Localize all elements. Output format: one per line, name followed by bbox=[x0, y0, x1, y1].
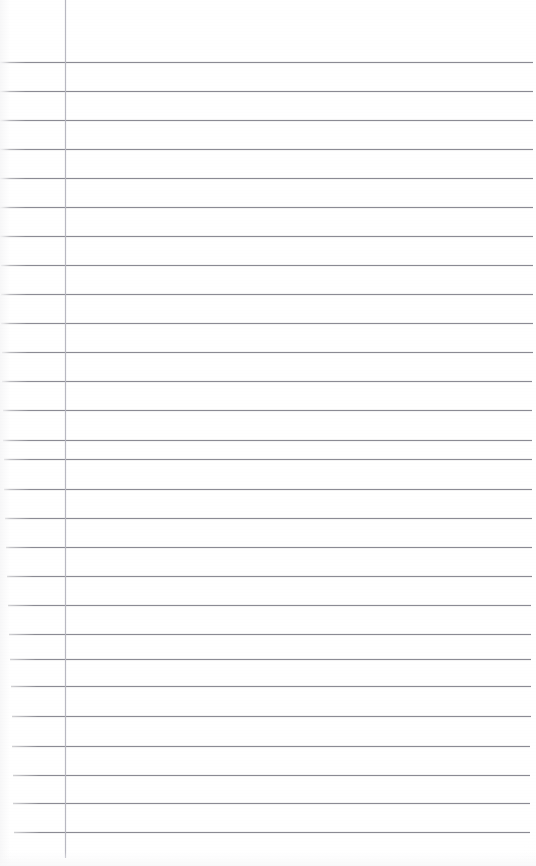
ruled-line bbox=[1, 294, 533, 295]
ruled-line bbox=[4, 459, 532, 460]
ruled-line bbox=[1, 265, 533, 266]
ruled-line bbox=[14, 832, 530, 833]
ruled-line bbox=[13, 775, 530, 776]
ruled-lines-layer bbox=[0, 0, 536, 866]
ruled-line bbox=[13, 803, 530, 804]
ruled-line bbox=[0, 91, 533, 92]
ruled-line bbox=[11, 686, 531, 687]
ruled-line bbox=[8, 605, 531, 606]
ruled-line bbox=[0, 62, 533, 63]
ruled-line bbox=[7, 576, 532, 577]
ruled-line bbox=[6, 547, 532, 548]
ruled-line bbox=[0, 236, 533, 237]
vertical-margin-rule bbox=[65, 0, 66, 858]
ruled-line bbox=[0, 207, 533, 208]
ruled-line bbox=[12, 716, 531, 717]
ruled-line bbox=[12, 746, 530, 747]
ruled-line bbox=[10, 659, 531, 660]
ruled-line bbox=[0, 178, 533, 179]
ruled-line bbox=[0, 149, 533, 150]
ruled-line bbox=[5, 518, 532, 519]
ruled-line bbox=[2, 381, 532, 382]
scanned-page bbox=[0, 0, 536, 866]
ruled-line bbox=[1, 323, 533, 324]
ruled-line bbox=[3, 440, 532, 441]
ruled-line bbox=[2, 352, 533, 353]
ruled-line bbox=[0, 120, 533, 121]
ruled-line bbox=[4, 489, 532, 490]
ruled-line bbox=[3, 410, 532, 411]
ruled-line bbox=[9, 634, 531, 635]
